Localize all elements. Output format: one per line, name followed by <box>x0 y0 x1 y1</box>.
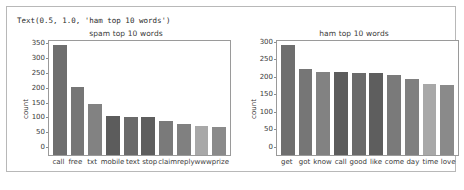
x-tick-label: get <box>278 158 296 166</box>
bar <box>71 87 85 155</box>
bar <box>299 69 313 155</box>
y-tick-label: 150 <box>32 99 45 107</box>
bar-column <box>332 41 350 155</box>
plot-area-spam: 501001502002503003500 <box>48 40 231 156</box>
y-tick-label: 100 <box>260 108 273 116</box>
y-tick-label: 0 <box>269 143 273 151</box>
x-tick-label: text <box>124 158 141 166</box>
y-tick-label: 250 <box>32 69 45 77</box>
bar-column <box>51 41 69 155</box>
y-tick-label: 200 <box>260 73 273 81</box>
x-tick-label: call <box>50 158 67 166</box>
bar-column <box>175 41 193 155</box>
chart-title-spam: spam top 10 words <box>17 29 235 38</box>
y-tick-label: 100 <box>32 113 45 121</box>
x-tick-label: got <box>296 158 314 166</box>
bar <box>334 72 348 155</box>
bar <box>124 117 138 155</box>
y-tick-label: 300 <box>32 54 45 62</box>
y-axis-label-ham: count <box>250 99 258 119</box>
bar <box>88 104 102 155</box>
bar <box>141 117 155 155</box>
bar-column <box>86 41 104 155</box>
bar-column <box>403 41 421 155</box>
bar-column <box>69 41 87 155</box>
bar <box>369 73 383 155</box>
x-tick-label: come <box>385 158 404 166</box>
x-tick-label: like <box>367 158 385 166</box>
bar-column <box>210 41 228 155</box>
bar-column <box>122 41 140 155</box>
x-tick-label: day <box>404 158 422 166</box>
x-tick-label: www <box>195 158 212 166</box>
bar <box>440 85 454 156</box>
bar <box>159 121 173 155</box>
bar-series-ham <box>277 41 458 155</box>
bar <box>53 45 67 155</box>
notebook-output-cell: Text(0.5, 1.0, 'ham top 10 words') spam … <box>0 0 464 190</box>
bar <box>195 126 209 155</box>
x-axis-ticks-spam: callfreetxtmobiletextstopclaimreplywwwpr… <box>48 158 231 166</box>
bar-column <box>438 41 456 155</box>
x-tick-label: claim <box>158 158 177 166</box>
bar-series-spam <box>49 41 230 155</box>
bar <box>405 79 419 155</box>
y-tick-label: 300 <box>260 38 273 46</box>
bar <box>316 72 330 155</box>
repr-text: Text(0.5, 1.0, 'ham top 10 words') <box>17 16 171 26</box>
bar-column <box>140 41 158 155</box>
plot-area-ham: 501001502002503000 <box>276 40 459 156</box>
y-tick-label: 200 <box>32 84 45 92</box>
bar-column <box>421 41 439 155</box>
x-axis-ticks-ham: getgotknowcallgoodlikecomedaytimelove <box>276 158 459 166</box>
matplotlib-figure: spam top 10 words count 5010015020025030… <box>13 29 464 189</box>
x-tick-label: time <box>422 158 440 166</box>
x-tick-label: good <box>349 158 367 166</box>
y-tick-label: 50 <box>36 128 45 136</box>
x-tick-label: love <box>439 158 457 166</box>
y-tick-label: 250 <box>260 55 273 63</box>
x-tick-label: call <box>332 158 350 166</box>
x-tick-label: reply <box>177 158 195 166</box>
x-tick-label: mobile <box>101 158 125 166</box>
y-tick-label: 150 <box>260 90 273 98</box>
bar <box>212 127 226 155</box>
bar <box>352 73 366 155</box>
y-axis-label-spam: count <box>22 99 30 119</box>
bar <box>177 124 191 155</box>
y-tick-label: 350 <box>32 39 45 47</box>
bar-column <box>368 41 386 155</box>
y-tick-label: 50 <box>264 125 273 133</box>
x-tick-label: prize <box>212 158 229 166</box>
bar <box>106 116 120 155</box>
bar-column <box>193 41 211 155</box>
bar-column <box>297 41 315 155</box>
bar-column <box>314 41 332 155</box>
bar-column <box>157 41 175 155</box>
chart-panel-spam: spam top 10 words count 5010015020025030… <box>17 29 235 189</box>
chart-title-ham: ham top 10 words <box>245 29 463 38</box>
chart-panel-ham: ham top 10 words count 50100150200250300… <box>245 29 463 189</box>
y-tick-label: 0 <box>41 143 45 151</box>
output-frame: Text(0.5, 1.0, 'ham top 10 words') spam … <box>6 6 456 172</box>
x-tick-label: know <box>313 158 332 166</box>
bar-column <box>350 41 368 155</box>
x-tick-label: free <box>67 158 84 166</box>
x-tick-label: stop <box>141 158 158 166</box>
bar <box>387 75 401 155</box>
x-tick-label: txt <box>84 158 101 166</box>
bar-column <box>385 41 403 155</box>
bar <box>281 45 295 155</box>
bar <box>423 84 437 155</box>
bar-column <box>279 41 297 155</box>
bar-column <box>104 41 122 155</box>
